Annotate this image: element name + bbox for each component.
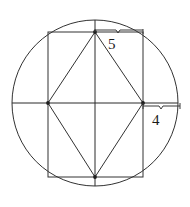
vertex-dot-bottom <box>93 175 97 179</box>
dimension-brace-4 <box>143 103 180 109</box>
dimension-4-brace-line <box>143 106 180 109</box>
geometry-diagram-svg <box>0 0 190 207</box>
vertex-dot-left <box>46 101 50 105</box>
geometry-figure: 5 4 <box>0 0 190 207</box>
dimension-label-5: 5 <box>108 37 116 52</box>
dimension-label-4: 4 <box>152 113 160 128</box>
